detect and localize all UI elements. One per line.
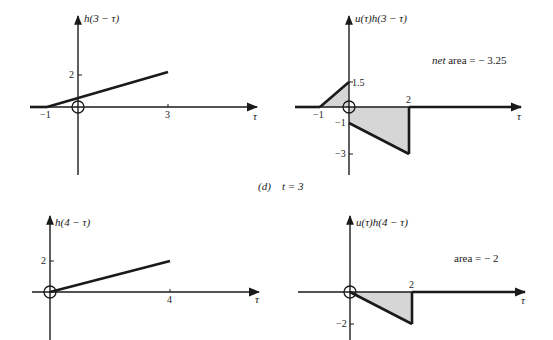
tick-y-neg1: −1 [335, 117, 346, 128]
x-label: τ [521, 294, 526, 306]
caption-eq: t = 3 [282, 180, 304, 192]
tick-x-neg1: −1 [40, 109, 51, 120]
figure: h(3 − τ) −1 3 2 τ u(τ)h(3 − τ) −1 2 1.5 … [0, 0, 553, 340]
panel-top-left: h(3 − τ) −1 3 2 τ [30, 12, 258, 175]
x-label: τ [517, 110, 522, 122]
panel-top-right: u(τ)h(3 − τ) −1 2 1.5 −1 −3 τ net area =… [295, 12, 522, 175]
tick-y-neg2: −2 [336, 318, 347, 329]
caption-label: (d) [258, 180, 271, 193]
tick-y-2: 2 [41, 255, 46, 266]
x-label: τ [255, 293, 260, 305]
tick-y-1.5: 1.5 [352, 77, 365, 88]
panel-bottom-right: u(τ)h(4 − τ) 2 −2 τ area = − 2 [298, 216, 526, 340]
tick-x-3: 3 [165, 109, 170, 120]
h-line [47, 72, 168, 107]
panel-bottom-left: h(4 − τ) 4 2 τ [32, 216, 260, 340]
tick-x-2: 2 [406, 94, 411, 105]
shaded-region-negative [349, 107, 409, 154]
y-label: h(4 − τ) [55, 216, 91, 229]
tick-x-2: 2 [409, 279, 414, 290]
tick-x-4: 4 [167, 294, 172, 305]
h-line [50, 261, 170, 292]
tick-y-2: 2 [69, 69, 74, 80]
area-annotation: area = − 2 [454, 252, 498, 264]
net-area-annotation: net area = − 3.25 [432, 54, 507, 66]
x-label: τ [253, 110, 258, 122]
tick-x-neg1: −1 [313, 109, 324, 120]
y-label: u(τ)h(4 − τ) [356, 216, 408, 229]
y-label: u(τ)h(3 − τ) [355, 12, 407, 25]
tick-y-neg3: −3 [335, 148, 346, 159]
y-label: h(3 − τ) [84, 12, 120, 25]
